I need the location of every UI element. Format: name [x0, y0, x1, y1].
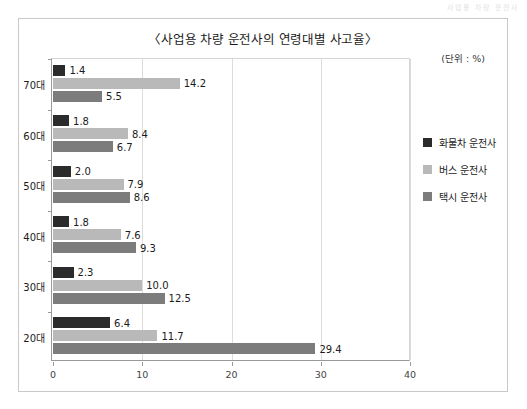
- bar-value-label: 6.7: [117, 141, 133, 152]
- y-category-label-4: 30대: [23, 279, 45, 294]
- bar-value-label: 8.6: [134, 192, 150, 203]
- y-tick-mark: [48, 59, 52, 60]
- bar: 12.5: [53, 293, 165, 304]
- legend-item-0[interactable]: 화물차 운전사: [423, 135, 513, 150]
- legend-swatch-icon: [423, 192, 432, 201]
- x-tick-label: 30: [315, 369, 327, 380]
- bar: 6.4: [53, 317, 110, 328]
- bar: 11.7: [53, 330, 157, 341]
- bar-value-label: 7.9: [128, 179, 144, 190]
- x-tick-mark: [53, 362, 54, 366]
- y-category-label-2: 50대: [23, 178, 45, 193]
- bar-value-label: 1.4: [69, 65, 85, 76]
- bar: 1.8: [53, 216, 69, 227]
- x-tick-label: 20: [225, 369, 237, 380]
- y-tick-mark: [48, 110, 52, 111]
- bar: 7.9: [53, 179, 124, 190]
- bar: 2.3: [53, 267, 74, 278]
- legend-swatch-icon: [423, 138, 432, 147]
- chart-title: 〈사업용 차량 운전사의 연령대별 사고율〉: [19, 29, 507, 48]
- x-tick-mark: [142, 362, 143, 366]
- y-category-label-3: 40대: [23, 228, 45, 243]
- bar: 1.4: [53, 65, 65, 76]
- x-tick-mark: [232, 362, 233, 366]
- bar-value-label: 5.5: [106, 91, 122, 102]
- bar: 6.7: [53, 141, 113, 152]
- legend-item-label: 화물차 운전사: [439, 135, 496, 150]
- x-tick-label: 10: [136, 369, 148, 380]
- legend-swatch-icon: [423, 165, 432, 174]
- bar-value-label: 8.4: [132, 128, 148, 139]
- bar: 29.4: [53, 343, 315, 354]
- chart-figure-frame: 〈사업용 차량 운전사의 연령대별 사고율〉 (단위 : %) 01020304…: [18, 18, 508, 392]
- bar: 2.0: [53, 166, 71, 177]
- bar: 14.2: [53, 78, 180, 89]
- scan-header-artifact: 사업용 차량 운전사: [447, 2, 519, 12]
- bar: 5.5: [53, 91, 102, 102]
- bar-value-label: 1.8: [73, 216, 89, 227]
- legend-item-label: 택시 운전사: [439, 189, 487, 204]
- y-category-label-5: 20대: [23, 329, 45, 344]
- x-tick-label: 0: [50, 369, 56, 380]
- bar-value-label: 7.6: [125, 229, 141, 240]
- bar: 1.8: [53, 115, 69, 126]
- plot-area: 01020304070대1.414.25.560대1.88.46.750대2.0…: [51, 58, 410, 361]
- bar-value-label: 2.3: [78, 267, 94, 278]
- bar-value-label: 14.2: [184, 78, 206, 89]
- y-tick-mark: [48, 261, 52, 262]
- y-tick-mark: [48, 312, 52, 313]
- bar: 8.6: [53, 192, 130, 203]
- bar-value-label: 29.4: [319, 343, 341, 354]
- bar-value-label: 2.0: [75, 166, 91, 177]
- x-tick-mark: [321, 362, 322, 366]
- x-gridline: [232, 59, 233, 360]
- bar: 10.0: [53, 280, 142, 291]
- bar-value-label: 10.0: [146, 280, 168, 291]
- bar-value-label: 6.4: [114, 317, 130, 328]
- bar-value-label: 1.8: [73, 115, 89, 126]
- bar: 8.4: [53, 128, 128, 139]
- chart-legend: 화물차 운전사버스 운전사택시 운전사: [423, 135, 513, 216]
- x-tick-mark: [410, 362, 411, 366]
- y-tick-mark: [48, 160, 52, 161]
- bar: 9.3: [53, 242, 136, 253]
- chart-unit-note: (단위 : %): [441, 51, 485, 65]
- legend-item-2[interactable]: 택시 운전사: [423, 189, 513, 204]
- bar: 7.6: [53, 229, 121, 240]
- x-gridline: [321, 59, 322, 360]
- bar-value-label: 12.5: [169, 293, 191, 304]
- x-tick-label: 40: [404, 369, 416, 380]
- x-gridline: [142, 59, 143, 360]
- bar-value-label: 9.3: [140, 242, 156, 253]
- y-category-label-1: 60대: [23, 127, 45, 142]
- y-category-label-0: 70대: [23, 77, 45, 92]
- x-gridline: [410, 59, 411, 360]
- legend-item-label: 버스 운전사: [439, 162, 487, 177]
- legend-item-1[interactable]: 버스 운전사: [423, 162, 513, 177]
- bar-value-label: 11.7: [161, 330, 183, 341]
- y-tick-mark: [48, 211, 52, 212]
